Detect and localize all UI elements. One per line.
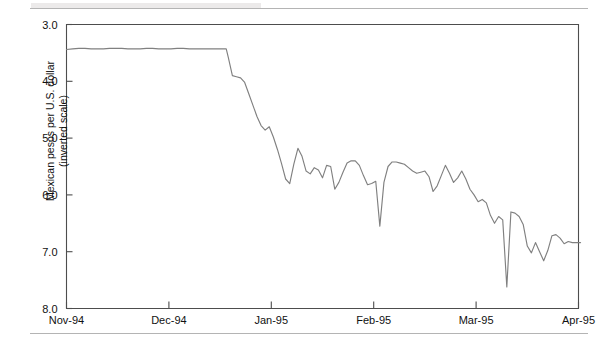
figure-container: Mexican pesos per U.S. dollar (inverted … [0, 0, 596, 341]
x-tick-label: Feb-95 [356, 314, 391, 326]
data-series-group [67, 48, 581, 287]
x-tick-label: Nov-94 [49, 314, 84, 326]
bottom-horizontal-rule [30, 333, 588, 334]
x-tick-label: Dec-94 [151, 314, 186, 326]
y-axis-title: Mexican pesos per U.S. dollar (inverted … [44, 1, 70, 261]
x-axis-ticks: Nov-94Dec-94Jan-95Feb-95Mar-95Apr-95 [49, 302, 595, 326]
top-horizontal-rule [30, 8, 588, 9]
x-tick-label: Jan-95 [254, 314, 288, 326]
line-chart-plot: 3.04.05.06.07.08.0 Nov-94Dec-94Jan-95Feb… [0, 0, 596, 341]
plot-frame [67, 25, 579, 309]
x-tick-label: Mar-95 [459, 314, 494, 326]
series-line [67, 48, 581, 287]
x-tick-label: Apr-95 [562, 314, 595, 326]
